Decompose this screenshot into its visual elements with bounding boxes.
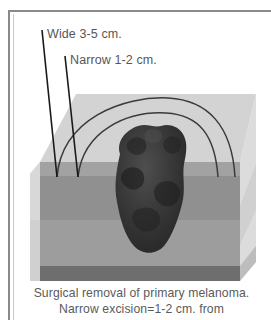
figure-root: Wide 3-5 cm. Narrow 1-2 cm. Surgical rem… [0, 0, 271, 320]
frame-top-rule [8, 10, 271, 12]
caption-line-2: Narrow excision=1-2 cm. from [14, 302, 269, 318]
illustration-stage: Wide 3-5 cm. Narrow 1-2 cm. [16, 14, 271, 284]
frame-left-rule [8, 10, 10, 320]
lesion-highlight [144, 129, 162, 143]
block-left-edge-highlight [30, 162, 40, 220]
layer-fascia [40, 266, 240, 281]
figure-caption: Surgical removal of primary melanoma. Na… [14, 286, 269, 317]
callout-label-narrow: Narrow 1-2 cm. [70, 53, 157, 67]
caption-line-1: Surgical removal of primary melanoma. [14, 286, 269, 302]
frame-left-inner-rule [13, 14, 14, 320]
callout-label-wide: Wide 3-5 cm. [47, 27, 122, 41]
